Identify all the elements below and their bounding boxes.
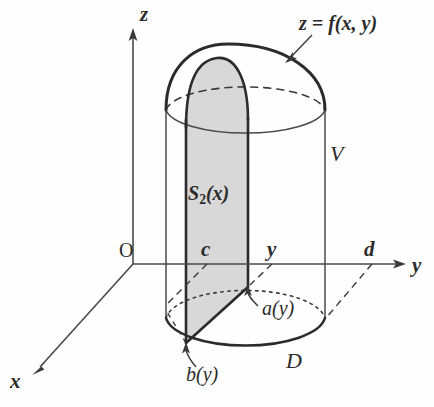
surface-callout-arrow <box>285 35 312 63</box>
tick-label-y: y <box>267 239 276 260</box>
tick-label-c: c <box>201 239 210 260</box>
cross-section-letter: S <box>188 182 199 204</box>
y-axis-label: y <box>412 255 421 276</box>
cross-section-label: S2(x) <box>188 183 229 206</box>
solid-label: V <box>330 143 343 165</box>
surface-equation-label: z = f(x, y) <box>299 13 377 33</box>
math-figure: z y x O c y d z = f(x, y) V D S2(x) a(y)… <box>0 0 434 407</box>
region-label: D <box>286 350 302 372</box>
cross-section-argument: (x) <box>206 182 229 204</box>
z-axis-label: z <box>140 4 148 25</box>
upper-boundary-label: b(y) <box>186 364 218 384</box>
cross-section-subscript: 2 <box>199 192 206 207</box>
x-axis-label: x <box>10 371 21 392</box>
tick-label-d: d <box>364 239 375 260</box>
lower-boundary-label: a(y) <box>262 298 294 318</box>
origin-label: O <box>119 240 133 260</box>
